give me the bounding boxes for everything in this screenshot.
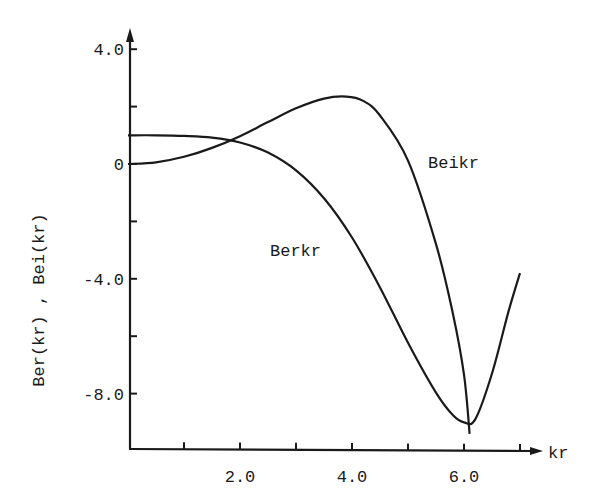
y-tick-label: -8.0 (83, 386, 124, 405)
x-axis (129, 447, 543, 455)
series-label-berkr: Berkr (270, 242, 321, 261)
chart: 4.00-4.0-8.0 2.04.06.0 kr Ber(kr) , Bei(… (0, 0, 602, 500)
y-axis (126, 28, 134, 449)
y-axis-arrow-icon (126, 28, 134, 42)
y-tick-label: 4.0 (93, 41, 124, 60)
x-axis-label: kr (548, 444, 568, 463)
y-tick-label: -4.0 (83, 271, 124, 290)
y-tick-label: 0 (114, 156, 124, 175)
series-line-berkr (128, 135, 520, 424)
y-axis-label: Ber(kr) , Bei(kr) (30, 213, 49, 386)
series-line-beikr (128, 96, 470, 433)
series-label-beikr: Beikr (428, 154, 479, 173)
x-tick-label: 6.0 (449, 468, 480, 487)
x-tick-label: 4.0 (337, 468, 368, 487)
x-axis-arrow-icon (530, 447, 543, 455)
x-tick-label: 2.0 (225, 468, 256, 487)
